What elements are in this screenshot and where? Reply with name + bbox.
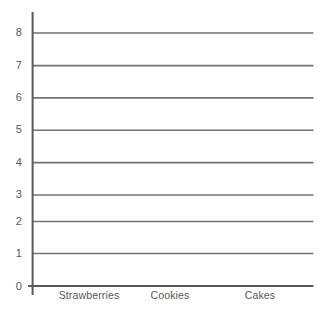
y-tick-label-5: 5 (6, 124, 22, 135)
y-tick-label-4: 4 (6, 157, 22, 168)
x-tick-label-cakes: Cakes (220, 289, 300, 301)
y-tick-label-2: 2 (6, 216, 22, 227)
y-tick-label-7: 7 (6, 60, 22, 71)
y-tick-label-3: 3 (6, 189, 22, 200)
bar-chart-canvas: 8 7 6 5 4 3 2 1 0 Strawberries Cookies C… (0, 0, 332, 315)
y-tick-label-1: 1 (6, 248, 22, 259)
x-tick-label-strawberries: Strawberries (39, 289, 139, 301)
y-tick-label-8: 8 (6, 27, 22, 38)
x-tick-label-cookies: Cookies (130, 289, 210, 301)
gridline-group (33, 33, 314, 254)
y-tick-label-6: 6 (6, 92, 22, 103)
chart-plot-area (0, 0, 332, 315)
y-tick-label-0: 0 (6, 281, 22, 292)
